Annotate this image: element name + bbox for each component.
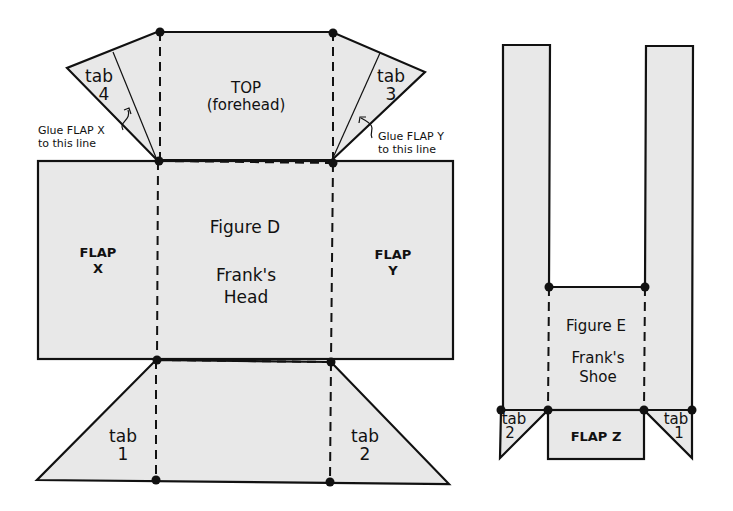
shoe-tab1-number: 1 (674, 424, 684, 442)
tab4-number: 4 (99, 84, 110, 104)
shoe-tab2-number: 2 (505, 424, 515, 442)
bottom-panel (37, 360, 449, 484)
vertex-dot (153, 356, 162, 365)
tab2-label: tab (351, 426, 379, 446)
top-label: TOP (230, 79, 261, 97)
vertex-dot (640, 406, 649, 415)
vertex-dot (544, 406, 553, 415)
figure-e-subtitle-2: Shoe (579, 368, 616, 386)
flap-z-label: FLAP Z (571, 429, 622, 444)
vertex-dot (155, 157, 164, 166)
figure-d-frank-head: tab 4 tab 3 TOP (forehead) Glue FLAP X t… (37, 28, 453, 487)
flap-x-label: FLAP (80, 245, 117, 260)
flap-x-letter: X (93, 261, 103, 276)
vertex-dot (688, 406, 697, 415)
glue-note-right-2: to this line (378, 143, 436, 156)
figure-d-subtitle: Frank's (216, 265, 276, 285)
tab3-number: 3 (386, 84, 397, 104)
tab1-number: 1 (118, 444, 129, 464)
vertex-dot (329, 159, 338, 168)
vertex-dot (326, 478, 335, 487)
figure-d-subtitle-2: Head (224, 287, 268, 307)
glue-note-left: Glue FLAP X (38, 124, 105, 137)
glue-note-left-2: to this line (38, 137, 96, 150)
vertex-dot (327, 358, 336, 367)
tab2-number: 2 (360, 444, 371, 464)
vertex-dot (156, 28, 165, 37)
figure-e-subtitle: Frank's (571, 349, 624, 367)
tab1-label: tab (109, 426, 137, 446)
vertex-dot (152, 476, 161, 485)
forehead-label: (forehead) (207, 96, 286, 114)
vertex-dot (641, 283, 650, 292)
figure-e-frank-shoe: Figure E Frank's Shoe FLAP Z tab 2 tab 1 (497, 45, 697, 459)
tab4-label: tab (85, 66, 113, 86)
figure-d-title: Figure D (210, 217, 280, 237)
papercraft-diagram: tab 4 tab 3 TOP (forehead) Glue FLAP X t… (0, 0, 733, 511)
tab3-label: tab (377, 66, 405, 86)
vertex-dot (545, 283, 554, 292)
figure-e-title: Figure E (566, 317, 626, 335)
glue-note-right: Glue FLAP Y (378, 130, 444, 143)
flap-y-label: FLAP (375, 247, 412, 262)
flap-y-letter: Y (387, 263, 398, 278)
vertex-dot (329, 29, 338, 38)
